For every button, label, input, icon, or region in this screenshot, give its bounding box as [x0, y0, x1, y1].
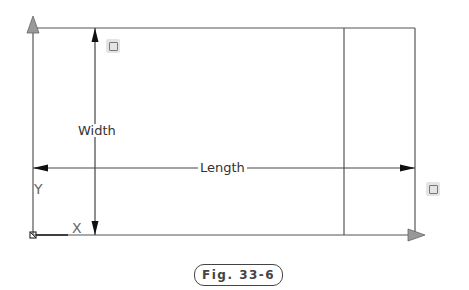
length-dimension-label: Length — [198, 161, 247, 174]
dynamic-block-grip-icon[interactable] — [426, 182, 440, 196]
figure-caption: Fig. 33-6 — [194, 264, 283, 286]
dynamic-block-grip-icon[interactable] — [106, 39, 120, 53]
ucs-y-axis-label: Y — [34, 182, 43, 196]
cad-drawing — [0, 0, 469, 290]
ucs-x-axis-label: X — [72, 221, 82, 235]
width-dimension-label: Width — [78, 124, 116, 137]
